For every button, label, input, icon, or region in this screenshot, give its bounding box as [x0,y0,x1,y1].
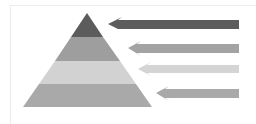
pyramid-layer-4 [23,84,152,107]
arrow-3-icon [138,62,239,76]
arrow-2-icon [128,41,239,56]
pyramid-layer-3 [39,61,136,84]
pyramid-diagram [0,0,256,124]
arrow-4-icon [156,86,239,101]
pyramid-layer-2 [55,37,120,61]
arrow-1-icon [108,17,239,31]
pyramid-layer-1 [71,13,103,37]
